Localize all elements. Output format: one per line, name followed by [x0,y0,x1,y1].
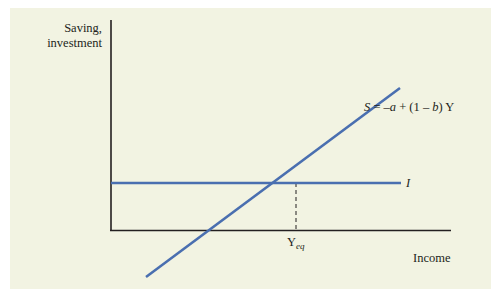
investment-label: I [405,176,411,190]
saving-neg-a: –a [383,100,397,114]
saving-investment-diagram: Saving, investment S = –a + (1 – b) Y I … [0,0,501,298]
saving-plus: + (1 – [396,100,432,114]
saving-function-label: S = –a + (1 – b) Y [364,100,454,114]
yeq-subscript: eq [296,241,305,251]
yeq-main: Y [287,235,296,249]
equilibrium-income-label: Yeq [287,235,305,251]
saving-close: ) Y [439,100,455,114]
saving-equals: = [370,100,383,114]
y-axis-label-line2: investment [47,36,102,50]
y-axis-label-line1: Saving, [64,21,102,35]
x-axis-label: Income [413,251,451,265]
